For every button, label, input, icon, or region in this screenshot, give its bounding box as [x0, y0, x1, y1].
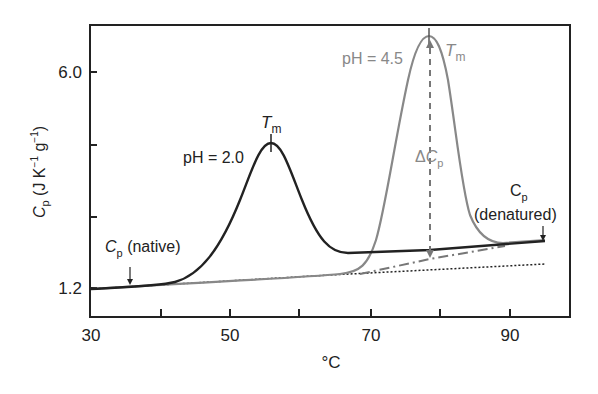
label-cp-denatured-c: Cp: [510, 182, 528, 203]
x-tick-90: 90: [501, 326, 520, 345]
x-axis-ticks: [161, 309, 510, 317]
label-cp-native: Cp (native): [105, 238, 180, 259]
label-cp-denatured: (denatured): [474, 206, 557, 223]
label-ph-4-5: pH = 4.5: [342, 50, 403, 67]
label-tm-ph45: Tm: [445, 41, 465, 64]
label-tm-ph2: Tm: [261, 113, 281, 136]
delta-cp-arrowhead-up: [426, 40, 434, 48]
x-tick-50: 50: [221, 326, 240, 345]
y-axis-label: Cp (J K−1 g−1): [29, 126, 51, 218]
label-delta-cp: ΔCp: [415, 148, 443, 169]
dsc-thermogram-chart: 30 50 70 90 6.0 1.2 °C Cp (J K−1 g−1) pH…: [0, 0, 598, 394]
x-tick-labels: 30 50 70 90: [82, 326, 520, 345]
y-axis-ticks: [90, 72, 97, 288]
svg-text:Cp (J K−1 g−1): Cp (J K−1 g−1): [29, 126, 51, 218]
y-tick-labels: 6.0 1.2: [58, 63, 82, 298]
x-tick-30: 30: [82, 326, 101, 345]
y-tick-1-2: 1.2: [58, 279, 82, 298]
y-tick-6-0: 6.0: [58, 63, 82, 82]
label-ph-2-0: pH = 2.0: [183, 149, 244, 166]
x-axis-label: °C: [321, 353, 340, 372]
x-tick-70: 70: [362, 326, 381, 345]
plot-frame: [90, 25, 570, 317]
native-arrowhead: [127, 279, 133, 285]
delta-cp-arrowhead-down: [426, 250, 434, 258]
